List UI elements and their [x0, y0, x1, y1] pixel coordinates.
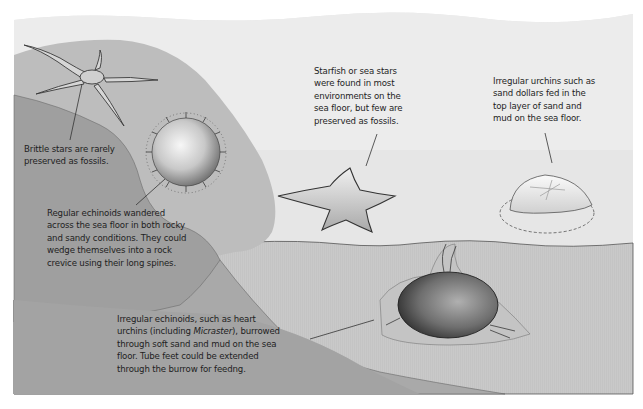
- caption-line: Irregular echinoids, such as heart: [117, 313, 280, 325]
- caption-line: mud on the sea floor.: [493, 112, 595, 124]
- caption-line: Irregular urchins such as: [493, 75, 595, 87]
- caption-line: floor. Tube feet could be extended: [117, 350, 280, 362]
- brittle-star-caption: Brittle stars are rarely preserved as fo…: [24, 143, 115, 168]
- caption-text: urchins (including: [117, 326, 193, 336]
- genus-name: Micraster: [193, 326, 232, 336]
- caption-line: Starfish or sea stars: [314, 65, 402, 77]
- caption-line: urchins (including Micraster), burrowed: [117, 325, 280, 337]
- sand-dollar-caption: Irregular urchins such as sand dollars f…: [493, 75, 595, 125]
- caption-line: Regular echinoids wandered: [47, 207, 186, 219]
- caption-line: Brittle stars are rarely: [24, 143, 115, 155]
- caption-line: through the burrow for feedng.: [117, 363, 280, 375]
- caption-line: sea floor, but few are: [314, 102, 402, 114]
- caption-line: through soft sand and mud on the sea: [117, 338, 280, 350]
- heart-urchin-caption: Irregular echinoids, such as heart urchi…: [117, 313, 280, 375]
- caption-line: were found in most: [314, 77, 402, 89]
- caption-line: across the sea floor in both rocky: [47, 219, 186, 231]
- caption-line: preserved as fossils.: [24, 155, 115, 167]
- caption-line: preserved as fossils.: [314, 115, 402, 127]
- caption-text: ), burrowed: [232, 326, 280, 336]
- caption-line: environments on the: [314, 90, 402, 102]
- regular-echinoid-caption: Regular echinoids wandered across the se…: [47, 207, 186, 269]
- caption-line: top layer of sand and: [493, 100, 595, 112]
- sea-floor-illustration: [0, 0, 643, 409]
- caption-line: crevice using their long spines.: [47, 257, 186, 269]
- caption-line: wedge themselves into a rock: [47, 244, 186, 256]
- starfish-caption: Starfish or sea stars were found in most…: [314, 65, 402, 127]
- caption-line: sand dollars fed in the: [493, 87, 595, 99]
- caption-line: and sandy conditions. They could: [47, 232, 186, 244]
